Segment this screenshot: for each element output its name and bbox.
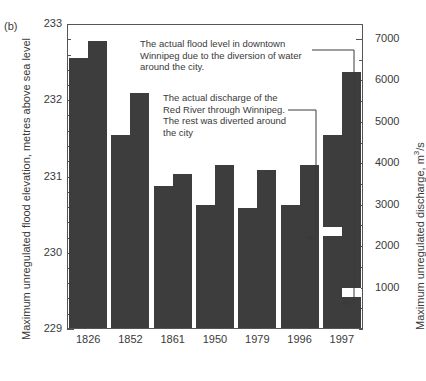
annotation-actual-discharge: The actual discharge of the Red River th… <box>163 92 293 138</box>
right-ticklabel: 6000 <box>375 73 399 85</box>
right-ticklabel: 5000 <box>375 115 399 127</box>
left-tick <box>67 55 71 56</box>
x-ticklabel-1950: 1950 <box>193 333 237 345</box>
x-ticklabel-1861: 1861 <box>151 333 195 345</box>
x-ticklabel-1852: 1852 <box>108 333 152 345</box>
right-tick <box>359 329 363 330</box>
right-ticklabel: 4000 <box>375 156 399 168</box>
left-axis-title: Maximum unregulated flood elevation, met… <box>20 38 32 340</box>
marker-white-notch-discharge <box>342 288 361 297</box>
right-axis-title-text: Maximum unregulated discharge, m <box>414 155 426 330</box>
left-tick <box>67 329 74 330</box>
left-ticklabel: 233 <box>22 17 62 29</box>
left-ticklabel: 230 <box>22 246 62 258</box>
left-tick <box>67 39 71 40</box>
bar-elevation-1826 <box>69 58 88 328</box>
right-axis-title: Maximum unregulated discharge, m3/s <box>412 142 426 330</box>
bar-discharge-1996 <box>300 165 319 328</box>
x-ticklabel-1996: 1996 <box>278 333 322 345</box>
bar-discharge-1826 <box>88 41 107 328</box>
left-tick <box>67 24 74 25</box>
right-ticklabel: 3000 <box>375 198 399 210</box>
panel-label: (b) <box>4 20 17 32</box>
right-ticklabel: 1000 <box>375 281 399 293</box>
right-axis-title-exponent: 3 <box>412 151 421 155</box>
right-tick <box>359 60 363 61</box>
right-ticklabel: 7000 <box>375 32 399 44</box>
bar-discharge-1852 <box>130 93 149 328</box>
left-ticklabel: 232 <box>22 93 62 105</box>
left-ticklabel: 231 <box>22 170 62 182</box>
right-tick <box>356 39 363 40</box>
bar-elevation-1979 <box>238 208 257 328</box>
bar-elevation-1861 <box>154 186 173 328</box>
bar-discharge-1979 <box>257 170 276 328</box>
bar-elevation-1996 <box>281 205 300 328</box>
bar-elevation-1852 <box>111 135 130 328</box>
x-ticklabel-1826: 1826 <box>66 333 110 345</box>
right-ticklabel: 2000 <box>375 239 399 251</box>
marker-white-notch-elevation <box>323 227 342 236</box>
left-ticklabel: 229 <box>22 322 62 334</box>
bar-elevation-1950 <box>196 205 215 328</box>
x-ticklabel-1979: 1979 <box>235 333 279 345</box>
bar-discharge-1950 <box>215 165 234 328</box>
right-axis-title-tail: /s <box>414 142 426 151</box>
annotation-flood-level: The actual flood level in downtown Winni… <box>140 38 308 73</box>
bar-discharge-1861 <box>173 174 192 328</box>
x-ticklabel-1997: 1997 <box>320 333 364 345</box>
